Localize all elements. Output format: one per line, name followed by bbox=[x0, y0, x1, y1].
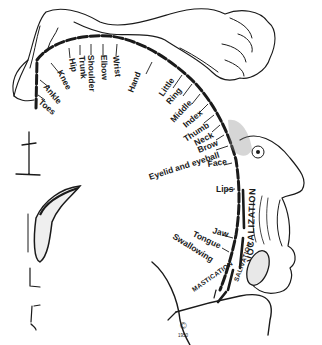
label-wrist: Wrist bbox=[111, 55, 123, 77]
left-medial-fragments bbox=[16, 132, 80, 330]
label-lips: Lips bbox=[216, 184, 234, 194]
label-elbow: Elbow bbox=[99, 55, 110, 81]
copyright-mark: © bbox=[180, 321, 187, 331]
body-part-labels: Toes Ankle Knee Hip Trunk Shoulder Elbow… bbox=[37, 55, 258, 293]
label-face: Face bbox=[207, 156, 228, 169]
copyright-year: 1950 bbox=[178, 333, 189, 338]
label-hand: Hand bbox=[126, 70, 143, 93]
homunculus-diagram: Toes Ankle Knee Hip Trunk Shoulder Elbow… bbox=[0, 0, 322, 345]
diagram-canvas: Toes Ankle Knee Hip Trunk Shoulder Elbow… bbox=[0, 0, 322, 345]
label-shoulder: Shoulder bbox=[86, 55, 97, 93]
